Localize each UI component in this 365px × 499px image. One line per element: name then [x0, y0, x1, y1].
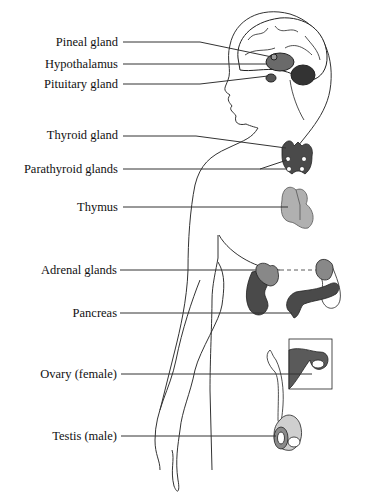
- endocrine-diagram: Pineal gland Hypothalamus Pituitary glan…: [0, 0, 365, 499]
- label-pancreas: Pancreas: [73, 306, 117, 320]
- label-pineal-gland: Pineal gland: [56, 35, 118, 49]
- label-thyroid-gland: Thyroid gland: [47, 128, 118, 142]
- pituitary-leader: [123, 76, 268, 84]
- label-testis-male: Testis (male): [52, 429, 117, 443]
- label-adrenal-glands: Adrenal glands: [41, 263, 117, 277]
- cerebellum: [291, 65, 315, 85]
- adrenal-kidney-pancreas: [246, 259, 340, 318]
- label-hypothalamus: Hypothalamus: [45, 57, 118, 71]
- parathyroid-lower-right: [300, 167, 305, 172]
- ovary-inset: [267, 339, 332, 424]
- thalamus: [266, 53, 294, 71]
- thyroid-leader: [123, 136, 286, 148]
- label-parathyroid-glands: Parathyroid glands: [24, 162, 118, 176]
- leader-lines: [120, 42, 312, 436]
- body-illustration: [0, 0, 365, 499]
- label-ovary-female: Ovary (female): [40, 367, 117, 381]
- pituitary-gland-shape: [266, 74, 276, 82]
- brain: [238, 18, 327, 120]
- parathyroid-upper-right: [302, 157, 307, 162]
- thymus-shape: [281, 187, 313, 228]
- right-adrenal-gland: [316, 259, 333, 280]
- vas-deferens: [267, 350, 283, 424]
- label-thymus: Thymus: [77, 200, 118, 214]
- brainstem-line: [290, 80, 304, 120]
- label-pituitary-gland: Pituitary gland: [44, 77, 118, 91]
- parathyroid-lower-left: [287, 167, 292, 172]
